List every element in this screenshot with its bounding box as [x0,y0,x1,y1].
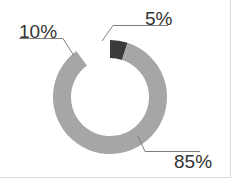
label-85-percent: 85% [174,152,212,171]
label-10-percent: 10% [19,22,57,41]
slice-85-percent [53,43,167,154]
label-5-percent: 5% [145,9,172,28]
